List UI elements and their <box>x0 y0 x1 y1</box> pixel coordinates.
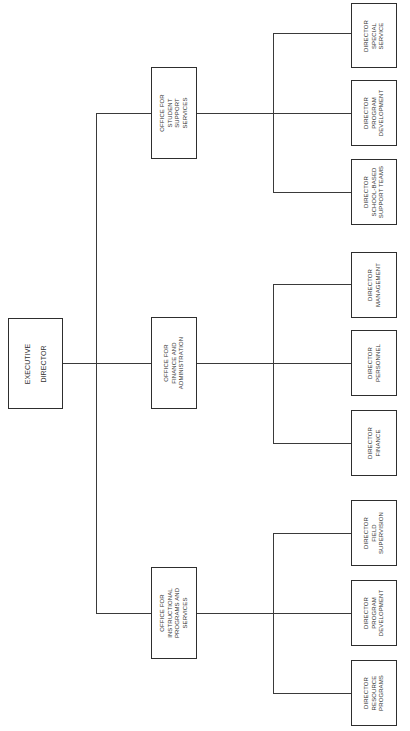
office-label: OFFICE FOR FINANCE AND ADMINISTRATION <box>163 337 186 389</box>
director-box: DIRECTOR PROGRAM DEVELOPMENT <box>351 580 397 646</box>
director-box: DIRECTOR PERSONNEL <box>351 330 397 396</box>
leaf-connector <box>273 443 351 444</box>
office-connector <box>96 613 151 614</box>
director-box: DIRECTOR SPECIAL SERVICE <box>351 3 397 68</box>
office-box-finance-administration: OFFICE FOR FINANCE AND ADMINISTRATION <box>151 317 197 409</box>
director-box: DIRECTOR PROGRAM DEVELOPMENT <box>351 80 397 146</box>
director-box: DIRECTOR FINANCE <box>351 410 397 476</box>
executive-director-label: EXECUTIVE DIRECTOR <box>20 343 52 384</box>
office-box-instructional-programs: OFFICE FOR INSTRUCTIONAL PROGRAMS AND SE… <box>151 567 197 659</box>
org-chart: EXECUTIVE DIRECTOR OFFICE FOR STUDENT SU… <box>0 0 410 731</box>
leaf-connector <box>273 113 351 114</box>
leaf-connector <box>273 533 351 534</box>
leaf-connector <box>273 284 351 285</box>
executive-director-box: EXECUTIVE DIRECTOR <box>8 318 63 409</box>
office-box-student-support: OFFICE FOR STUDENT SUPPORT SERVICES <box>151 67 197 159</box>
leaf-connector <box>273 33 351 34</box>
branch-connector <box>196 613 273 614</box>
director-box: DIRECTOR MANAGEMENT <box>351 252 397 318</box>
office-connector <box>96 363 151 364</box>
director-box: DIRECTOR SCHOOL-BASED SUPPORT TEAMS <box>351 159 397 225</box>
director-box: DIRECTOR FIELD SUPERVISION <box>351 500 397 566</box>
leaf-connector <box>273 363 351 364</box>
director-box: DIRECTOR RESOURCE PROGRAMS <box>351 660 397 726</box>
office-label: OFFICE FOR INSTRUCTIONAL PROGRAMS AND SE… <box>159 588 189 638</box>
leaf-connector <box>273 613 351 614</box>
office-connector <box>96 113 151 114</box>
root-connector <box>63 363 96 364</box>
office-label: OFFICE FOR STUDENT SUPPORT SERVICES <box>159 94 189 131</box>
leaf-connector <box>273 693 351 694</box>
leaf-connector <box>273 192 351 193</box>
branch-connector <box>196 113 273 114</box>
branch-connector <box>196 363 273 364</box>
